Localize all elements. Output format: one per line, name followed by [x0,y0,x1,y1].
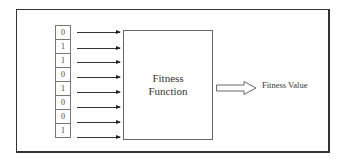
input-arrow [77,77,120,78]
fitness-value-label: Fitness Value [262,80,307,90]
chromosome-bit-string: 0 1 1 0 1 0 0 1 [55,25,71,138]
input-arrow [77,62,120,63]
output-block-arrow-icon [216,81,258,95]
input-arrow [77,48,120,49]
bit-cell: 1 [55,53,71,68]
bit-cell: 0 [55,95,71,110]
bit-cell: 1 [55,81,71,96]
bit-cell: 0 [55,25,71,40]
input-arrow [77,92,120,93]
bit-cell: 0 [55,109,71,124]
input-arrow [77,122,120,123]
input-arrow [77,32,120,33]
bit-cell: 0 [55,67,71,82]
fitness-function-label-line1: Fitness [152,72,183,85]
input-arrow [77,107,120,108]
bit-cell: 1 [55,123,71,138]
fitness-function-label-line2: Function [148,85,187,98]
input-arrow [77,137,120,138]
bit-cell: 1 [55,39,71,54]
fitness-function-box: Fitness Function [123,30,213,140]
